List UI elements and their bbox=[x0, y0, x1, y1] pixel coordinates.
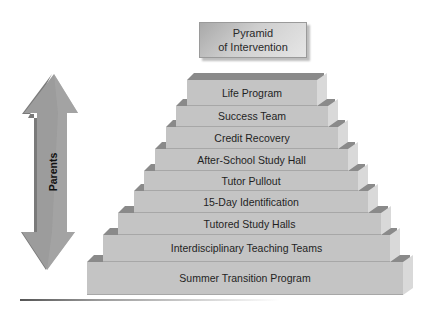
layer-label: Life Program bbox=[187, 80, 317, 106]
layer-label: Summer Transition Program bbox=[87, 262, 403, 295]
layer-label: After-School Study Hall bbox=[155, 149, 348, 171]
layer-top-face bbox=[187, 73, 324, 80]
pyramid-layer: Credit Recovery bbox=[166, 127, 338, 149]
title-line-2: of Intervention bbox=[218, 40, 288, 54]
layer-label: Tutor Pullout bbox=[144, 171, 358, 191]
layer-label: Tutored Study Halls bbox=[118, 213, 381, 235]
pyramid-layer: Interdisciplinary Teaching Teams bbox=[103, 235, 390, 262]
pyramid-layer: Life Program bbox=[187, 80, 317, 106]
pyramid-title-box: Pyramid of Intervention bbox=[199, 22, 307, 58]
pyramid-layer: Tutored Study Halls bbox=[118, 213, 381, 235]
layer-label: Success Team bbox=[176, 106, 328, 127]
pyramid-layer: Tutor Pullout bbox=[144, 171, 358, 191]
pyramid-layer: After-School Study Hall bbox=[155, 149, 348, 171]
pyramid-layer: 15-Day Identification bbox=[134, 191, 368, 213]
layer-side-face bbox=[403, 255, 413, 295]
layer-label: 15-Day Identification bbox=[134, 191, 368, 213]
pyramid-layer: Success Team bbox=[176, 106, 328, 127]
pyramid-layer: Summer Transition Program bbox=[87, 262, 403, 295]
layer-label: Credit Recovery bbox=[166, 127, 338, 149]
divider-line bbox=[20, 299, 280, 301]
layer-label: Interdisciplinary Teaching Teams bbox=[103, 235, 390, 262]
title-line-1: Pyramid bbox=[233, 26, 273, 40]
parents-label: Parents bbox=[47, 153, 59, 192]
